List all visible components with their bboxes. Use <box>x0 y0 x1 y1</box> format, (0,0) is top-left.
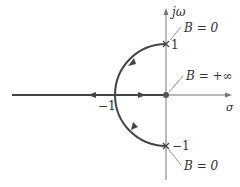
root-locus-diagram: jω σ B = 0 1 B = +∞ −1 −1 B = 0 <box>0 0 240 187</box>
real-axis-arrow-icon <box>225 93 232 98</box>
lower-pole-value: −1 <box>172 140 190 152</box>
upper-pole-note: B = 0 <box>184 22 218 34</box>
arrow-right-icon <box>138 92 146 98</box>
origin-zero-icon <box>163 92 169 98</box>
upper-pole-value: 1 <box>171 39 179 51</box>
arrow-left-icon <box>88 92 96 98</box>
origin-note: B = +∞ <box>186 70 233 82</box>
real-axis-label: σ <box>226 102 234 113</box>
imag-axis-label: jω <box>172 6 186 18</box>
breakaway-value: −1 <box>98 100 116 112</box>
leader-origin <box>169 76 183 92</box>
lower-pole-note: B = 0 <box>184 160 218 172</box>
arc-arrow-lower-icon <box>131 122 138 130</box>
imag-axis-arrow-icon <box>164 8 169 15</box>
